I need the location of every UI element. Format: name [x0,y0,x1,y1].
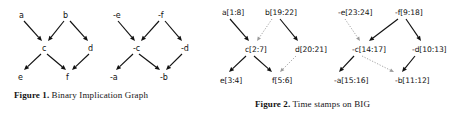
edge-c-e [233,56,246,69]
edge-d-f-arrowhead [280,68,284,72]
node-c: c [42,44,46,53]
node-neg-d: -d [181,44,189,53]
node-neg-e: -e[23:24] [338,8,372,17]
node-neg-b: -b [160,73,168,82]
figure-caption-text: Binary Implication Graph [51,90,148,100]
node-f: f [66,73,69,82]
node-neg-f: -f [158,11,164,20]
edge-c-e-arrowhead [229,67,234,72]
edge-neg-f-neg-c [144,21,159,37]
node-neg-f: -f[9:18] [395,8,423,17]
edge-c-f-arrowhead [61,65,66,70]
figure-caption: Figure 1. Binary Implication Graph [14,90,148,100]
edge-neg-f-neg-c [373,19,398,38]
node-neg-c: -c [133,44,140,53]
figure-time-stamps-on-big: a[1:8]b[19:22]c[2:7]d[20:21]e[3:4]f[5:6]… [218,0,472,117]
edge-b-d-arrowhead [83,36,88,41]
edge-b-c-arrowhead [48,36,53,41]
edge-c-e [28,54,41,67]
edge-c-e-arrowhead [24,65,29,70]
edge-neg-d-neg-b-arrowhead [166,65,171,70]
node-neg-b: -b[11:12] [395,76,429,85]
node-a: a [19,11,24,20]
edge-b-d [70,21,85,37]
edge-neg-d-neg-b [170,54,182,66]
figure-binary-implication-graph: abcdef-e-f-c-d-a-b Figure 1. Binary Impl… [0,0,218,117]
node-e: e [18,73,23,82]
edge-neg-c-neg-a [342,56,354,68]
edge-neg-e-neg-c [345,19,358,38]
figure-caption: Figure 2. Time stamps on BIG [255,99,370,109]
edge-b-c [259,19,272,38]
edge-d-f-arrowhead [72,65,77,70]
edge-neg-f-neg-d-arrowhead [416,36,421,41]
edge-a-c-arrowhead [244,36,249,41]
edge-b-c-arrowhead [257,36,261,41]
node-b: b[19:22] [265,8,297,17]
edge-b-c [51,21,64,37]
node-c: c[2:7] [245,45,267,54]
edge-a-c [24,21,39,37]
edge-neg-c-neg-b [362,56,390,70]
edge-neg-f-neg-d [165,21,179,37]
edge-neg-d-neg-b [405,56,415,68]
edge-neg-e-neg-c [118,21,132,37]
edge-neg-d-neg-b-arrowhead [402,67,407,72]
edge-d-f [76,54,89,67]
node-f: f[5:6] [272,76,292,85]
edge-neg-c-neg-a [120,54,133,67]
edge-neg-e-neg-c-arrowhead [356,36,360,41]
node-neg-e: -e [113,11,121,20]
edge-a-c [230,19,246,37]
node-neg-a: -a [110,73,118,82]
node-neg-a: -a[15:16] [334,76,368,85]
node-d: d [88,44,93,53]
figure-panel: abcdef-e-f-c-d-a-b Figure 1. Binary Impl… [0,0,472,117]
edge-neg-c-neg-b [139,54,156,67]
edge-c-f [47,54,62,67]
edge-neg-f-neg-c-arrowhead [141,36,146,41]
node-b: b [63,11,68,20]
node-e: e[3:4] [220,76,242,85]
edge-neg-c-neg-b-arrowhead [389,68,394,72]
edge-neg-c-neg-a-arrowhead [116,65,121,70]
node-neg-d: -d[10:13] [412,45,446,54]
edge-c-f-arrowhead [267,67,272,72]
edge-c-f [254,56,268,69]
figure-caption-text: Time stamps on BIG [292,99,370,109]
edge-b-d [280,19,295,37]
node-neg-c: -c[14:17] [352,45,386,54]
edge-neg-e-neg-c-arrowhead [130,36,135,41]
node-d: d[20:21] [295,45,327,54]
edge-neg-f-neg-d [406,19,418,37]
edge-neg-f-neg-c-arrowhead [369,36,374,41]
edge-b-d-arrowhead [293,36,298,41]
edge-neg-c-neg-a-arrowhead [339,67,344,72]
figure-caption-label: Figure 1. [14,90,49,100]
edge-d-f [283,56,296,69]
node-a: a[1:8] [222,8,244,17]
edge-neg-f-neg-d-arrowhead [177,36,182,41]
edge-a-c-arrowhead [37,36,42,41]
edge-neg-c-neg-b-arrowhead [155,65,160,70]
figure-caption-label: Figure 2. [255,99,290,109]
